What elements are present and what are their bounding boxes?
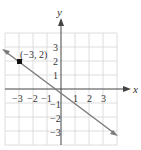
y-tick-labels: 3 2 1 −1 −2 −3	[50, 42, 61, 138]
y-axis-label: y	[56, 6, 62, 18]
svg-text:2: 2	[87, 93, 92, 104]
x-axis-arrow-icon	[123, 86, 131, 92]
svg-text:−3: −3	[50, 127, 61, 138]
y-axis-arrow-icon	[58, 18, 64, 26]
svg-text:−2: −2	[27, 93, 38, 104]
svg-text:1: 1	[53, 70, 58, 81]
svg-text:3: 3	[53, 42, 58, 53]
x-axis-label: x	[132, 83, 138, 95]
coordinate-plane: x y −3 −2 −1 1 2 3 3 2 1 −1 −2 −3 (−3, 2…	[0, 0, 141, 150]
axes	[5, 20, 126, 145]
svg-text:−2: −2	[50, 113, 61, 124]
svg-text:2: 2	[53, 56, 58, 67]
svg-text:−3: −3	[12, 93, 23, 104]
svg-text:3: 3	[101, 93, 106, 104]
svg-text:−1: −1	[50, 99, 61, 110]
point-label: (−3, 2)	[20, 49, 47, 61]
